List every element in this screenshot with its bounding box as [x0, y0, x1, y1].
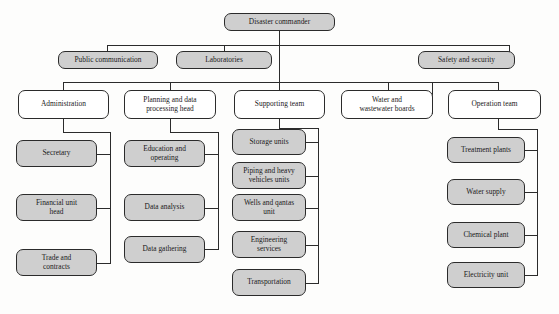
node-supporting-team[interactable]: Supporting team [234, 90, 325, 119]
node-label: Disaster commander [249, 18, 310, 26]
connector-supporting-child-3 [305, 208, 319, 209]
connector-supporting-bus [318, 128, 319, 283]
node-label: Treatment plants [461, 146, 511, 154]
connector-root-stem [279, 31, 280, 45]
connector-drop-supporting-team [279, 82, 280, 90]
node-safety-and-security[interactable]: Safety and security [418, 51, 515, 69]
node-label: Data gathering [143, 245, 187, 253]
connector-admin-bus-top [63, 132, 110, 133]
node-label: Water and wastewater boards [359, 96, 414, 113]
connector-level2-bus [107, 45, 510, 46]
node-label: Wells and qantas unit [244, 199, 294, 216]
node-piping-and-heavy-vehicles-units[interactable]: Piping and heavy vehicles units [232, 162, 306, 189]
node-financial-unit-head[interactable]: Financial unit head [16, 194, 97, 221]
node-label: Engineering services [251, 236, 287, 253]
connector-supporting-stem [279, 119, 280, 128]
connector-admin-child-3 [96, 263, 111, 264]
node-label: Piping and heavy vehicles units [243, 167, 295, 184]
connector-admin-child-1 [96, 154, 111, 155]
connector-admin-bus [110, 132, 111, 263]
connector-supporting-child-1 [305, 142, 319, 143]
node-disaster-commander[interactable]: Disaster commander [224, 13, 335, 31]
connector-root-stem-lower [279, 45, 280, 82]
node-water-and-wastewater-boards[interactable]: Water and wastewater boards [341, 90, 433, 119]
connector-planning-child-3 [205, 249, 219, 250]
node-administration[interactable]: Administration [18, 90, 109, 119]
connector-operation-bus-top [498, 129, 537, 130]
node-storage-units[interactable]: Storage units [232, 129, 306, 155]
node-label: Financial unit head [36, 199, 77, 216]
connector-drop-planning [170, 82, 171, 90]
node-label: Chemical plant [463, 231, 508, 239]
node-label: Education and operating [143, 145, 186, 162]
node-wells-and-qantas-unit[interactable]: Wells and qantas unit [232, 194, 306, 221]
connector-planning-bus-top [170, 132, 218, 133]
connector-drop-water-boards [388, 82, 389, 90]
node-label: Laboratories [205, 56, 243, 64]
node-laboratories[interactable]: Laboratories [176, 51, 272, 69]
node-operation-team[interactable]: Operation team [448, 90, 541, 119]
node-label: Safety and security [438, 56, 495, 64]
node-label: Data analysis [145, 203, 185, 211]
connector-planning-child-1 [205, 154, 219, 155]
connector-admin-stem [63, 119, 64, 132]
node-planning-and-data-processing-head[interactable]: Planning and data processing head [124, 90, 216, 119]
node-label: Trade and contracts [42, 254, 72, 271]
node-electricity-unit[interactable]: Electricity unit [447, 262, 525, 288]
node-trade-and-contracts[interactable]: Trade and contracts [16, 249, 97, 276]
node-label: Planning and data processing head [143, 96, 196, 113]
node-treatment-plants[interactable]: Treatment plants [447, 137, 525, 163]
node-label: Public communication [74, 56, 141, 64]
node-label: Secretary [42, 149, 70, 157]
connector-planning-stem [170, 119, 171, 132]
connector-supporting-child-4 [305, 245, 319, 246]
node-chemical-plant[interactable]: Chemical plant [447, 222, 525, 248]
connector-operation-child-1 [524, 150, 538, 151]
node-data-gathering[interactable]: Data gathering [124, 236, 205, 263]
connector-operation-child-4 [524, 275, 538, 276]
connector-drop-administration [63, 82, 64, 90]
connector-admin-child-2 [96, 208, 111, 209]
connector-operation-child-3 [524, 235, 538, 236]
connector-planning-bus [218, 132, 219, 249]
node-engineering-services[interactable]: Engineering services [232, 231, 306, 258]
node-label: Storage units [249, 138, 288, 146]
node-label: Administration [41, 100, 86, 108]
connector-operation-stem [498, 119, 499, 129]
node-public-communication[interactable]: Public communication [58, 51, 158, 69]
node-label: Transportation [247, 278, 291, 286]
node-label: Operation team [471, 100, 517, 108]
node-water-supply[interactable]: Water supply [447, 179, 525, 205]
node-data-analysis[interactable]: Data analysis [124, 194, 205, 221]
org-chart-canvas: Disaster commander Public communication … [0, 0, 559, 314]
node-label: Water supply [466, 188, 505, 196]
connector-supporting-child-5 [305, 283, 319, 284]
node-secretary[interactable]: Secretary [16, 140, 97, 167]
node-education-and-operating[interactable]: Education and operating [124, 140, 205, 167]
connector-drop-operation-team [498, 82, 499, 90]
connector-operation-child-2 [524, 192, 538, 193]
node-transportation[interactable]: Transportation [232, 269, 306, 296]
connector-planning-child-2 [205, 208, 219, 209]
node-label: Supporting team [255, 100, 304, 108]
connector-supporting-child-2 [305, 176, 319, 177]
node-label: Electricity unit [464, 271, 508, 279]
